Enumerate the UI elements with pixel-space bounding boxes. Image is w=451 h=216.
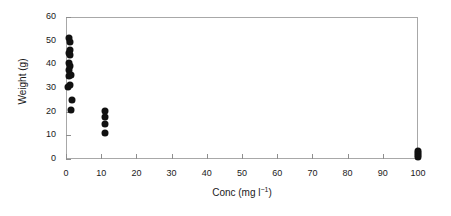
- scatter-chart-figure: 0102030405060 0102030405060708090100 Con…: [0, 0, 451, 216]
- data-point: [65, 73, 72, 80]
- data-point: [67, 106, 74, 113]
- x-axis-title-exponent: −1: [261, 186, 269, 193]
- data-point: [68, 96, 75, 103]
- y-axis-tick-labels: 0102030405060: [0, 17, 62, 159]
- data-point: [65, 83, 72, 90]
- x-axis-tick-labels: 0102030405060708090100: [66, 159, 418, 160]
- x-axis-title: Conc (mg l−1): [66, 186, 418, 198]
- x-tick-label: 40: [187, 168, 227, 178]
- x-tick-label: 30: [152, 168, 192, 178]
- y-tick-label: 50: [46, 35, 56, 45]
- x-tick-label: 0: [46, 168, 86, 178]
- y-tick-label: 40: [46, 58, 56, 68]
- data-point: [101, 120, 108, 127]
- x-tick-label: 50: [222, 168, 262, 178]
- x-tick-label: 60: [257, 168, 297, 178]
- data-point: [101, 130, 108, 137]
- x-tick-label: 100: [398, 168, 438, 178]
- x-tick-label: 90: [363, 168, 403, 178]
- data-points-layer: [66, 17, 418, 159]
- data-point: [66, 39, 73, 46]
- x-tick-label: 20: [116, 168, 156, 178]
- y-tick-label: 20: [46, 106, 56, 116]
- y-tick-label: 10: [46, 129, 56, 139]
- x-tick-label: 80: [328, 168, 368, 178]
- data-point: [415, 153, 422, 160]
- y-axis-title: Weight (g): [17, 11, 28, 153]
- y-tick-label: 0: [51, 153, 56, 163]
- x-tick-label: 10: [81, 168, 121, 178]
- x-tick-label: 70: [292, 168, 332, 178]
- y-tick-label: 60: [46, 11, 56, 21]
- y-tick-label: 30: [46, 82, 56, 92]
- data-point: [66, 52, 73, 59]
